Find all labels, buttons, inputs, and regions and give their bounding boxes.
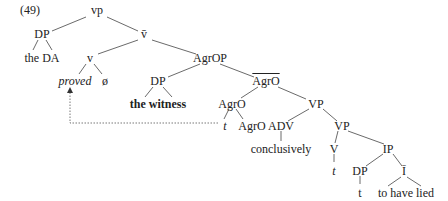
node-vp: vp	[91, 4, 103, 16]
leaf-dp-trace: t	[358, 187, 361, 199]
node-adv: ADV	[268, 120, 294, 132]
node-agrop: AgrOP	[193, 52, 227, 64]
leaf-to-have-lied: to have lied	[378, 187, 434, 199]
syntax-tree: (49) vp DP v̄ the DA v AgrOP proved ø DP…	[0, 0, 448, 201]
node-ip: IP	[383, 143, 394, 155]
node-vp-upper: VP	[308, 98, 323, 110]
leaf-the-witness: the witness	[130, 98, 186, 110]
example-number: (49)	[20, 4, 40, 16]
node-v-bar: v̄	[141, 28, 147, 40]
node-i-bar: Ī	[402, 165, 406, 177]
leaf-conclusively: conclusively	[251, 143, 312, 155]
leaf-trace-t: t	[223, 120, 226, 132]
node-dp-lower: DP	[352, 165, 367, 177]
leaf-proved: proved	[59, 75, 92, 87]
node-agro-bar: AgrO	[252, 75, 279, 87]
node-agro-head: AgrO	[238, 120, 265, 132]
node-v-lower: V	[330, 143, 339, 155]
leaf-null: ø	[102, 75, 108, 87]
node-dp-object: DP	[150, 75, 165, 87]
leaf-the-da: the DA	[25, 52, 60, 64]
node-agro: AgrO	[218, 98, 245, 110]
node-dp-subject: DP	[34, 28, 49, 40]
leaf-v-trace: t	[332, 165, 335, 177]
node-vp-lower: VP	[334, 120, 349, 132]
node-v: v	[87, 52, 93, 64]
